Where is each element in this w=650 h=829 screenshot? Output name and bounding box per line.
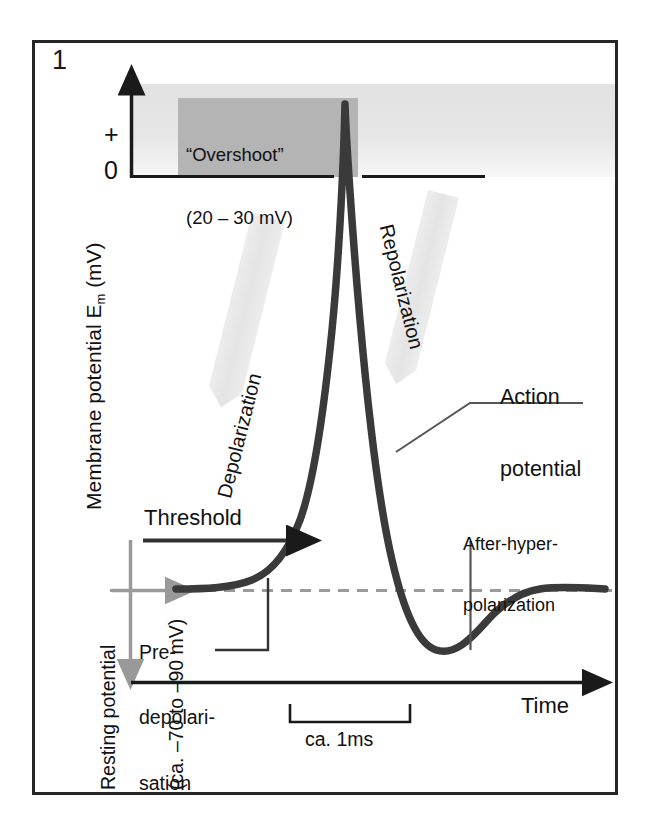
resting-potential-label-line2: (ca. –70 to –90 mV) <box>165 619 188 790</box>
time-scale-bracket <box>290 704 410 722</box>
after-hyperpolarization-label-line2: polarization <box>463 595 558 615</box>
action-potential-label-line1: Action <box>500 385 581 409</box>
x-axis-label: Time <box>521 694 569 719</box>
after-hyperpolarization-label-line1: After-hyper- <box>463 534 558 554</box>
threshold-label: Threshold <box>144 506 242 531</box>
action-potential-label-line2: potential <box>500 457 581 481</box>
after-hyperpolarization-label: After-hyper- polarization <box>463 494 558 655</box>
resting-potential-label-line1: Resting potential <box>97 619 120 790</box>
y-tick-zero: 0 <box>104 156 118 184</box>
overshoot-label-line2: (20 – 30 mV) <box>186 208 293 229</box>
overshoot-label-line1: “Overshoot” <box>186 145 293 166</box>
time-scale-label: ca. 1ms <box>305 729 373 751</box>
y-axis-label-main: Membrane potential E <box>82 305 105 510</box>
y-axis-label-subscript: m <box>93 294 108 305</box>
overshoot-label: “Overshoot” (20 – 30 mV) <box>186 104 293 270</box>
resting-potential-label: Resting potential (ca. –70 to –90 mV) <box>52 619 233 790</box>
y-axis-label-unit: (mV) <box>82 242 105 293</box>
y-tick-plus: + <box>104 120 119 148</box>
action-potential-figure: 1 <box>0 0 650 829</box>
y-axis-label: Membrane potential Em (mV) <box>82 242 108 510</box>
